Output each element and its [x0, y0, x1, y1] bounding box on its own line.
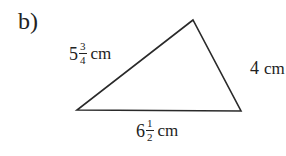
side-left-fraction: 3 4 — [79, 41, 87, 66]
side-right-value: 4 — [250, 59, 259, 77]
side-left-denominator: 4 — [80, 54, 86, 66]
side-left-numerator: 3 — [79, 41, 87, 54]
side-bottom-whole: 6 — [136, 122, 145, 140]
side-left-whole: 5 — [69, 45, 78, 63]
side-label-right: 4 cm — [250, 59, 285, 77]
side-left-unit: cm — [91, 45, 112, 62]
side-bottom-numerator: 1 — [146, 118, 154, 131]
side-label-bottom: 6 1 2 cm — [136, 118, 178, 143]
side-bottom-fraction: 1 2 — [146, 118, 154, 143]
side-label-left: 5 3 4 cm — [69, 41, 111, 66]
side-bottom-denominator: 2 — [147, 131, 153, 143]
side-right-unit: cm — [264, 60, 285, 77]
side-bottom-unit: cm — [158, 122, 179, 139]
